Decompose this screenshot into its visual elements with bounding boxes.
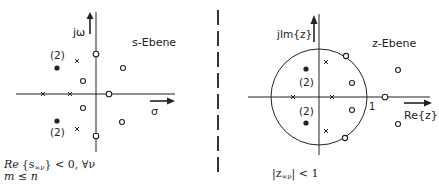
zero-marker-icon xyxy=(350,81,355,86)
zero-marker-icon xyxy=(121,66,126,71)
sigma-arrow-icon xyxy=(150,98,175,105)
zero-marker-icon xyxy=(343,53,348,58)
zero-marker-icon xyxy=(106,91,112,97)
pole-marker-icon xyxy=(75,127,79,131)
jomega-label: jω xyxy=(72,26,85,39)
zero-marker-icon xyxy=(396,122,401,127)
double-pole-marker-icon xyxy=(303,66,308,71)
stability-condition-z: |z∞ν| < 1 xyxy=(272,167,319,181)
zero-marker-icon xyxy=(81,79,86,84)
zero-marker-icon xyxy=(396,68,401,73)
s-plane-title: s-Ebene xyxy=(132,36,176,49)
jomega-arrow-icon xyxy=(87,12,94,34)
pole-marker-icon xyxy=(324,60,328,64)
zero-marker-icon xyxy=(120,120,125,125)
s-zeros xyxy=(81,51,126,139)
double-pole-marker-icon xyxy=(303,120,308,125)
s-plane xyxy=(16,12,175,152)
re-label: Re{z} xyxy=(404,109,438,122)
zero-marker-icon xyxy=(382,94,388,100)
zero-marker-icon xyxy=(342,135,347,140)
z-plane xyxy=(248,14,432,155)
pole-marker-icon xyxy=(75,59,79,63)
double-pole-marker-icon xyxy=(54,118,59,123)
double-pole-marker-icon xyxy=(54,65,59,70)
unit-circle-label: 1 xyxy=(369,101,375,112)
jim-label: jIm{z} xyxy=(276,28,312,40)
zero-marker-icon xyxy=(93,133,99,139)
zero-marker-icon xyxy=(81,106,86,111)
multiplicity-lower-label: (2) xyxy=(50,126,65,138)
pole-zero-diagram: s-Ebene jω σ (2) (2) Re{s∞ν} < 0, ∀ν m ≤… xyxy=(0,0,439,190)
multiplicity-upper-label: (2) xyxy=(50,49,65,61)
multiplicity-upper-label: (2) xyxy=(299,76,314,88)
order-condition: m ≤ n xyxy=(4,170,38,183)
z-plane-title: z-Ebene xyxy=(372,37,416,50)
pole-marker-icon xyxy=(324,129,328,133)
re-arrow-icon xyxy=(404,100,432,107)
sigma-label: σ xyxy=(151,105,158,118)
s-poles xyxy=(41,59,79,131)
zero-marker-icon xyxy=(93,51,99,57)
zero-marker-icon xyxy=(350,108,355,113)
multiplicity-lower-label: (2) xyxy=(299,105,314,117)
